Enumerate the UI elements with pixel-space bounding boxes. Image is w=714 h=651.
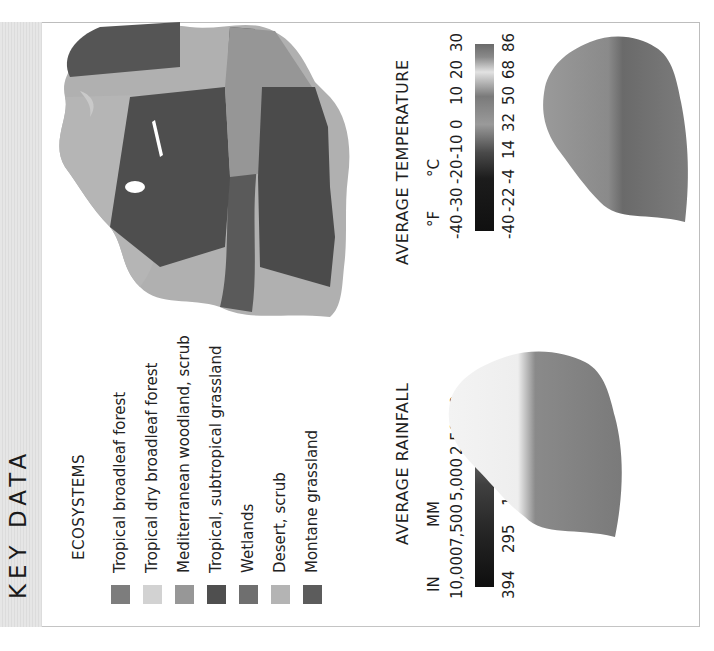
legend-item: Montane grassland [302,430,322,604]
legend-swatch [303,585,322,604]
temperature-tick-f: 86 [500,33,518,52]
ecosystems-title: ECOSYSTEMS [70,454,88,560]
legend-swatch [239,585,258,604]
legend-item: Desert, scrub [270,472,290,604]
rainfall-unit-in: IN [425,576,443,592]
legend-item: Tropical, subtropical grassland [206,345,226,604]
legend-swatch [207,585,226,604]
legend-swatch [111,585,130,604]
temperature-tick-f: -4 [500,169,518,184]
legend-item: Wetlands [238,504,258,604]
legend-item: Mediterranean woodland, scrub [174,335,194,604]
legend-label: Tropical broadleaf forest [111,392,129,573]
temperature-map [535,22,695,232]
temperature-unit-c: °C [425,159,443,177]
legend-label: Desert, scrub [271,472,289,573]
legend-label: Wetlands [239,504,257,573]
temperature-tick-c: -10 [448,135,466,160]
temperature-tick-c: 30 [448,33,466,52]
legend-label: Tropical dry broadleaf forest [143,363,161,573]
legend-label: Montane grassland [303,430,321,573]
legend-item: Tropical broadleaf forest [110,392,130,604]
temperature-tick-c: -40 [448,215,466,240]
temperature-title: AVERAGE TEMPERATURE [393,59,412,265]
atlas-page: KEY DATA ECOSYSTEMS Tropical broadleaf f… [0,0,714,651]
temperature-tick-c: 20 [448,60,466,79]
legend-item: Tropical dry broadleaf forest [142,363,162,604]
temperature-unit-f: °F [425,211,443,227]
temperature-tick-f: -40 [500,215,518,240]
rainfall-tick-in: 394 [500,570,518,599]
temperature-tick-c: -20 [448,160,466,185]
rainfall-tick-mm: 10,000 [448,547,466,600]
rainfall-map [435,337,635,547]
legend-swatch [175,585,194,604]
temperature-gradient-bar [475,44,494,231]
panel-title: KEY DATA [5,449,31,599]
legend-swatch [143,585,162,604]
ecosystems-map [30,0,360,327]
temperature-tick-f: -22 [500,188,518,213]
rainfall-title: AVERAGE RAINFALL [393,383,412,545]
key-data-panel: KEY DATA ECOSYSTEMS Tropical broadleaf f… [0,22,700,627]
legend-label: Tropical, subtropical grassland [207,345,225,573]
legend-swatch [271,585,290,604]
temperature-tick-f: 68 [500,60,518,79]
temperature-tick-f: 50 [500,86,518,105]
temperature-tick-c: 0 [448,119,466,129]
legend-label: Mediterranean woodland, scrub [175,335,193,573]
temperature-tick-c: 10 [448,86,466,105]
temperature-tick-f: 14 [500,140,518,159]
temperature-tick-f: 32 [500,113,518,132]
temperature-tick-c: -30 [448,188,466,213]
